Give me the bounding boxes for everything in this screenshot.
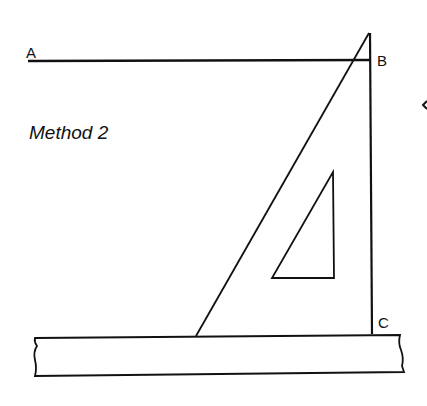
line-bc (370, 33, 372, 334)
label-c: C (378, 314, 389, 331)
line-ab (28, 60, 371, 61)
label-a: A (26, 44, 36, 61)
set-square-hypotenuse (196, 33, 369, 336)
diagram-canvas: A B C Method 2 (0, 0, 427, 406)
diagram-title: Method 2 (29, 122, 109, 143)
straight-edge (34, 335, 404, 376)
arrowhead-icon (423, 101, 427, 109)
label-b: B (377, 52, 387, 69)
